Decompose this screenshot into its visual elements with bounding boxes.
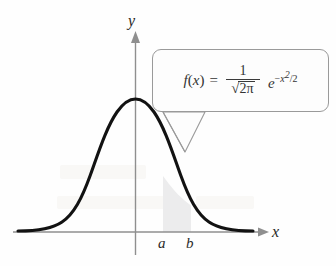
formula-radical: √2π bbox=[231, 81, 254, 97]
normal-distribution-figure: f(x) = 1 √2π e−x2/2 a b x y bbox=[0, 0, 336, 266]
formula-exp-divider: /2 bbox=[290, 73, 298, 84]
formula-equals: = bbox=[209, 72, 217, 89]
formula-fn-var: x bbox=[193, 72, 200, 89]
formula-exponential: e−x2/2 bbox=[268, 69, 298, 92]
formula-radicand: 2π bbox=[238, 81, 254, 97]
x-axis-label: x bbox=[272, 224, 279, 240]
formula-fraction: 1 √2π bbox=[226, 64, 260, 97]
formula-fn-close: ) bbox=[199, 72, 204, 89]
y-axis-label: y bbox=[128, 13, 135, 29]
plot-canvas bbox=[0, 0, 336, 266]
formula-denominator: √2π bbox=[228, 81, 257, 97]
formula-exp-base: e bbox=[268, 75, 275, 91]
y-axis bbox=[131, 31, 140, 255]
formula-exponent: −x2/2 bbox=[275, 73, 298, 84]
formula-numerator: 1 bbox=[235, 64, 250, 79]
shaded-area-a-to-b bbox=[163, 176, 191, 232]
tick-label-b: b bbox=[186, 236, 194, 251]
formula-callout-box: f(x) = 1 √2π e−x2/2 bbox=[152, 49, 329, 112]
formula-expression: f(x) = 1 √2π e−x2/2 bbox=[153, 50, 328, 111]
tick-label-a: a bbox=[158, 236, 166, 251]
